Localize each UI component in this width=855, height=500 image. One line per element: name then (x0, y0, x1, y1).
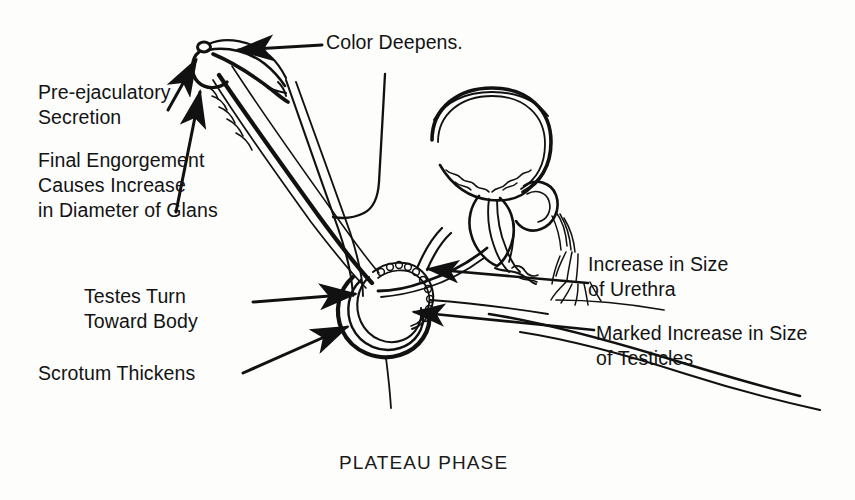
prostate-and-urethra (378, 182, 558, 297)
leader-testicles (414, 312, 594, 330)
leader-scrotum-thickens (243, 327, 347, 373)
penis-shaft (205, 66, 379, 296)
leader-pre-ejaculatory (168, 60, 196, 110)
leader-color-deepens (238, 45, 322, 50)
abdominal-wall-contour (333, 74, 385, 218)
figure-canvas: Color Deepens. Pre-ejaculatory Secretion… (0, 0, 855, 500)
label-pre-ejaculatory-secretion: Pre-ejaculatory Secretion (38, 80, 171, 130)
anatomy-line-drawing (0, 0, 855, 500)
label-color-deepens: Color Deepens. (326, 30, 463, 55)
label-testes-turn-toward-body: Testes Turn Toward Body (84, 284, 198, 334)
bladder (432, 88, 551, 200)
label-increase-in-size-of-urethra: Increase in Size of Urethra (588, 252, 728, 302)
label-marked-increase-in-size-of-testicles: Marked Increase in Size of Testicles (596, 321, 807, 371)
label-scrotum-thickens: Scrotum Thickens (38, 361, 195, 386)
label-final-engorgement: Final Engorgement Causes Increase in Dia… (38, 148, 218, 223)
scrotum-and-testis (338, 228, 451, 408)
figure-caption: PLATEAU PHASE (339, 452, 508, 474)
